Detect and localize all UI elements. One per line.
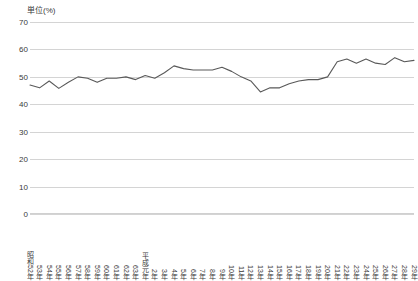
x-tick-label: 15年 xyxy=(276,265,283,280)
x-tick-label: 13年 xyxy=(257,265,264,280)
x-tick-label: 9年 xyxy=(219,269,226,280)
x-tick-label: 4年 xyxy=(171,269,178,280)
x-tick-label: 14年 xyxy=(267,265,274,280)
y-axis-labels: 706050403020100 xyxy=(2,22,28,214)
x-tick-label: 12年 xyxy=(247,265,254,280)
x-tick-label: 23年 xyxy=(353,265,360,280)
x-axis-baseline xyxy=(30,213,414,214)
x-tick-label: 6年 xyxy=(190,269,197,280)
y-tick-label-50: 50 xyxy=(6,72,28,81)
x-tick-label: 2年 xyxy=(151,269,158,280)
x-tick-label: 5年 xyxy=(180,269,187,280)
x-tick-label: 11年 xyxy=(238,266,245,280)
x-tick-label: 10年 xyxy=(228,265,235,280)
series-polyline xyxy=(30,58,414,92)
gridline-0 xyxy=(30,214,414,215)
x-tick-label: 63年 xyxy=(132,265,139,280)
y-tick-label-20: 20 xyxy=(6,155,28,164)
x-tick-label: 20年 xyxy=(324,265,331,280)
x-tick-label: 平成元年 xyxy=(142,252,149,280)
plot-area xyxy=(30,22,414,214)
y-tick-label-30: 30 xyxy=(6,127,28,136)
x-tick-label: 28年 xyxy=(401,265,408,280)
y-tick-label-70: 70 xyxy=(6,18,28,27)
x-tick-label: 26年 xyxy=(382,265,389,280)
x-tick-label: 8年 xyxy=(209,269,216,280)
x-tick-label: 17年 xyxy=(295,265,302,280)
x-tick-label: 7年 xyxy=(199,269,206,280)
x-tick-label: 16年 xyxy=(286,265,293,280)
x-tick-label: 55年 xyxy=(55,265,62,280)
x-tick-label: 60年 xyxy=(103,265,110,280)
x-tick-label: 18年 xyxy=(305,265,312,280)
x-tick-label: 53年 xyxy=(36,265,43,280)
x-tick-label: 21年 xyxy=(334,265,341,280)
line-chart: 単位(%) 706050403020100 昭和52年53年54年55年56年5… xyxy=(0,0,418,281)
x-tick-label: 24年 xyxy=(363,265,370,280)
y-tick-label-60: 60 xyxy=(6,45,28,54)
x-tick-label: 61年 xyxy=(113,265,120,280)
x-tick-label: 62年 xyxy=(123,265,130,280)
x-tick-label: 59年 xyxy=(94,265,101,280)
x-tick-label: 56年 xyxy=(65,265,72,280)
x-tick-label: 58年 xyxy=(84,265,91,280)
x-axis-labels: 昭和52年53年54年55年56年57年58年59年60年61年62年63年平成… xyxy=(30,216,414,280)
x-tick-label: 25年 xyxy=(372,265,379,280)
x-tick-label: 54年 xyxy=(46,265,53,280)
unit-label: 単位(%) xyxy=(27,4,55,15)
x-tick-label: 昭和52年 xyxy=(27,251,34,280)
x-tick-label: 29年 xyxy=(411,265,418,280)
y-tick-label-0: 0 xyxy=(6,210,28,219)
y-tick-label-10: 10 xyxy=(6,182,28,191)
x-tick-label: 3年 xyxy=(161,269,168,280)
series-line xyxy=(30,22,414,214)
x-tick-label: 19年 xyxy=(315,265,322,280)
x-tick-label: 27年 xyxy=(391,265,398,280)
y-tick-label-40: 40 xyxy=(6,100,28,109)
x-tick-label: 22年 xyxy=(343,265,350,280)
x-tick-label: 57年 xyxy=(75,265,82,280)
